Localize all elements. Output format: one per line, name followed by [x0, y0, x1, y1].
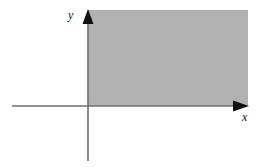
shaded-region [88, 10, 248, 106]
x-axis-label: x [242, 111, 247, 123]
coordinate-plane-figure: y x [0, 0, 263, 167]
y-axis-label: y [68, 9, 73, 21]
coordinate-plane-svg [0, 0, 263, 167]
